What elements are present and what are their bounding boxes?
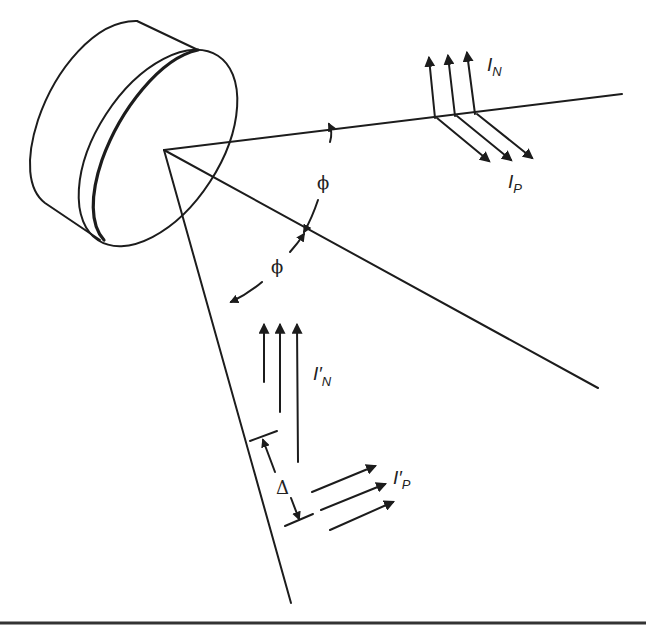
reflected-normal-arrows: [264, 325, 298, 462]
label-reflected-normal: I′N: [313, 363, 332, 389]
incident-ray-line: [164, 94, 622, 150]
arrow: [437, 118, 489, 161]
angle-arc-upper-b: [304, 200, 318, 232]
dimension-arrow-top: [263, 440, 275, 472]
arrow: [330, 502, 393, 530]
arrow: [477, 114, 532, 158]
label-incident-normal: IN: [487, 54, 502, 79]
angle-label-upper: ϕ: [317, 172, 329, 193]
arrow: [457, 116, 511, 160]
cylinder-source: [30, 21, 270, 274]
reflected-ray-line: [164, 150, 291, 603]
label-incident-parallel: IP: [508, 171, 522, 196]
reflected-parallel-arrows: [312, 466, 393, 530]
arrow: [312, 466, 375, 492]
angle-arc-lower-b: [231, 282, 262, 302]
angle-label-lower: ϕ: [271, 256, 283, 277]
offset-label: Δ: [276, 477, 289, 498]
reflection-diagram: ϕ ϕ IN IP I′N I′P Δ: [0, 0, 646, 626]
arrow: [448, 56, 455, 116]
arrow: [321, 484, 385, 510]
angle-arc-upper-a: [329, 124, 331, 142]
incident-parallel-arrows: [437, 114, 532, 161]
arrow: [429, 58, 435, 118]
label-reflected-parallel: I′P: [393, 467, 411, 492]
cylinder-front-rim: [93, 50, 198, 240]
angle-arc-lower-a: [290, 234, 304, 252]
cylinder-front-face: [46, 22, 270, 274]
cylinder-back-outline: [30, 21, 137, 240]
dimension-arrow-bottom: [291, 498, 299, 519]
arrow: [297, 325, 298, 462]
arrow: [467, 53, 475, 114]
normal-line: [164, 150, 598, 388]
cylinder-top-edge: [137, 21, 198, 50]
incident-normal-arrows: [429, 53, 475, 118]
